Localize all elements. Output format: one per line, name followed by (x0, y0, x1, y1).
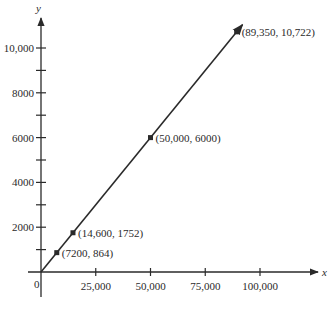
data-point-marker (70, 230, 75, 235)
x-tick-label: 50,000 (135, 280, 166, 292)
data-point-marker (234, 29, 239, 34)
data-point-label: (7200, 864) (62, 247, 114, 260)
linear-function-chart: x y 0 25,00050,00075,000100,000 20004000… (0, 0, 329, 311)
data-point-label: (14,600, 1752) (78, 227, 143, 240)
y-tick-label: 2000 (12, 221, 35, 233)
y-tick-label: 10,000 (4, 42, 35, 54)
data-point-marker (148, 135, 153, 140)
y-tick-label: 6000 (12, 132, 35, 144)
x-tick-label: 25,000 (81, 280, 112, 292)
y-ticks: 200040006000800010,000 (4, 42, 46, 250)
x-axis-label: x (321, 266, 327, 278)
origin-label: 0 (34, 278, 40, 290)
y-axis-label: y (35, 2, 41, 14)
y-tick-label: 4000 (12, 176, 35, 188)
data-points: (7200, 864)(14,600, 1752)(50,000, 6000)(… (54, 26, 315, 260)
data-point-label: (50,000, 6000) (156, 132, 221, 145)
y-tick-label: 8000 (12, 87, 35, 99)
data-point-label: (89,350, 10,722) (242, 26, 316, 39)
x-tick-label: 75,000 (190, 280, 221, 292)
data-point-marker (54, 250, 59, 255)
x-tick-label: 100,000 (242, 280, 278, 292)
